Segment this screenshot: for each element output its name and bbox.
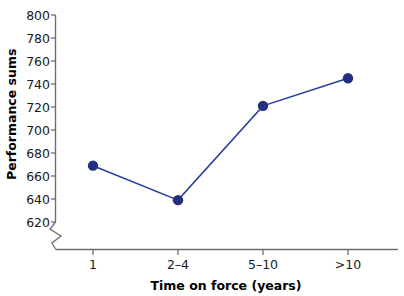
data-markers-group bbox=[88, 73, 353, 205]
x-tick-label: 1 bbox=[89, 257, 97, 272]
y-tick-label: 740 bbox=[26, 77, 50, 92]
x-tick-label: >10 bbox=[335, 257, 361, 272]
y-tick-label: 620 bbox=[26, 215, 50, 230]
data-point-marker bbox=[173, 195, 183, 205]
y-tick-label: 720 bbox=[26, 100, 50, 115]
x-axis-title: Time on force (years) bbox=[150, 278, 301, 293]
x-tick-label: 5–10 bbox=[248, 257, 278, 272]
y-tick-label: 800 bbox=[26, 8, 50, 23]
y-axis-title: Performance sums bbox=[4, 49, 19, 180]
data-point-marker bbox=[258, 101, 268, 111]
axis-break-icon bbox=[50, 222, 61, 249]
y-tick-label: 680 bbox=[26, 146, 50, 161]
data-point-marker bbox=[343, 73, 353, 83]
chart-container: Performance sums 800 780 760 740 720 700… bbox=[0, 0, 404, 296]
x-tick-label: 2–4 bbox=[167, 257, 189, 272]
y-tick-label: 660 bbox=[26, 169, 50, 184]
data-point-marker bbox=[88, 160, 98, 170]
line-chart: Performance sums 800 780 760 740 720 700… bbox=[0, 0, 404, 296]
y-tick-label: 780 bbox=[26, 31, 50, 46]
y-tick-label: 760 bbox=[26, 54, 50, 69]
y-tick-label: 640 bbox=[26, 192, 50, 207]
y-tick-label: 700 bbox=[26, 123, 50, 138]
data-series-line bbox=[93, 78, 348, 200]
